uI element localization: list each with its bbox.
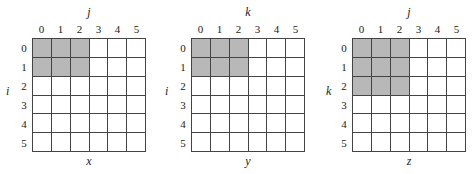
grid-cell bbox=[267, 96, 286, 115]
col-tick: 0 bbox=[32, 23, 51, 35]
grid-cell bbox=[447, 96, 466, 115]
col-tick-labels: 0 1 2 3 4 5 bbox=[352, 23, 466, 35]
grid-cell bbox=[230, 58, 249, 77]
grid-cell bbox=[71, 114, 90, 133]
row-tick-labels: 0 1 2 3 4 5 bbox=[177, 38, 189, 152]
grid-cell bbox=[33, 77, 52, 96]
grid-cell bbox=[286, 133, 305, 152]
grid-cell bbox=[211, 39, 230, 58]
grid-cell bbox=[447, 58, 466, 77]
grid-cell bbox=[428, 114, 447, 133]
grid-cell bbox=[90, 114, 109, 133]
col-tick: 1 bbox=[51, 23, 70, 35]
grid-cell bbox=[71, 58, 90, 77]
grid-cell bbox=[372, 96, 391, 115]
grid-cell bbox=[447, 114, 466, 133]
grid-cell bbox=[428, 39, 447, 58]
grid-cell bbox=[372, 39, 391, 58]
grid-cell bbox=[410, 96, 429, 115]
col-tick: 0 bbox=[191, 23, 210, 35]
grid-cell bbox=[428, 58, 447, 77]
grid-cell bbox=[90, 58, 109, 77]
grid-cell bbox=[353, 114, 372, 133]
col-tick-labels: 0 1 2 3 4 5 bbox=[32, 23, 146, 35]
col-tick: 5 bbox=[127, 23, 146, 35]
grid-cell bbox=[267, 114, 286, 133]
grid-cell bbox=[353, 39, 372, 58]
grid-cell bbox=[372, 114, 391, 133]
grid-cell bbox=[353, 96, 372, 115]
grid-cell bbox=[353, 58, 372, 77]
col-tick: 4 bbox=[108, 23, 127, 35]
grid-cell bbox=[286, 39, 305, 58]
grid-cell bbox=[90, 96, 109, 115]
grid-cell bbox=[391, 77, 410, 96]
row-axis-label: k bbox=[326, 84, 331, 99]
grid-cell bbox=[192, 114, 211, 133]
col-tick: 4 bbox=[267, 23, 286, 35]
grid-cell bbox=[372, 77, 391, 96]
row-tick: 0 bbox=[177, 38, 189, 57]
grid-cell bbox=[447, 133, 466, 152]
grid-cell bbox=[90, 77, 109, 96]
row-tick: 5 bbox=[18, 133, 30, 152]
row-tick: 5 bbox=[338, 133, 350, 152]
col-tick: 0 bbox=[352, 23, 371, 35]
grid-cell bbox=[249, 58, 268, 77]
grid-cell bbox=[410, 133, 429, 152]
col-tick: 5 bbox=[447, 23, 466, 35]
grid-cell bbox=[52, 58, 71, 77]
panel-z: j 0 1 2 3 4 5 k 0 1 2 3 4 5 z bbox=[332, 0, 472, 174]
grid-cell bbox=[249, 39, 268, 58]
grid-cell bbox=[428, 96, 447, 115]
grid-cell bbox=[353, 77, 372, 96]
col-tick-labels: 0 1 2 3 4 5 bbox=[191, 23, 305, 35]
grid-cell bbox=[108, 114, 127, 133]
row-axis-label: i bbox=[6, 84, 9, 99]
grid-cell bbox=[52, 133, 71, 152]
col-tick: 3 bbox=[248, 23, 267, 35]
row-tick: 3 bbox=[338, 95, 350, 114]
grid-cell bbox=[192, 39, 211, 58]
row-tick: 1 bbox=[338, 57, 350, 76]
grid-cell bbox=[108, 77, 127, 96]
row-tick: 0 bbox=[338, 38, 350, 57]
grid-cell bbox=[33, 133, 52, 152]
grid-cell bbox=[391, 133, 410, 152]
grid-cell bbox=[71, 77, 90, 96]
grid-cell bbox=[52, 77, 71, 96]
col-axis-label: j bbox=[352, 5, 466, 20]
row-tick: 0 bbox=[18, 38, 30, 57]
grid-cell bbox=[211, 133, 230, 152]
grid-cell bbox=[249, 96, 268, 115]
grid-cell bbox=[211, 58, 230, 77]
grid-cell bbox=[211, 77, 230, 96]
grid-cell bbox=[447, 39, 466, 58]
grid-cell bbox=[267, 133, 286, 152]
row-tick: 4 bbox=[338, 114, 350, 133]
grid-cell bbox=[391, 96, 410, 115]
grid-cell bbox=[33, 114, 52, 133]
grid-cell bbox=[127, 114, 146, 133]
panel-x: j 0 1 2 3 4 5 i 0 1 2 3 4 5 x bbox=[12, 0, 162, 174]
grid-cell bbox=[286, 96, 305, 115]
grid-cell bbox=[267, 39, 286, 58]
grid-cell bbox=[286, 114, 305, 133]
row-tick: 1 bbox=[18, 57, 30, 76]
grid-cell bbox=[267, 77, 286, 96]
col-tick: 2 bbox=[229, 23, 248, 35]
grid-cell bbox=[230, 39, 249, 58]
grid-cell bbox=[249, 77, 268, 96]
grid-cell bbox=[353, 133, 372, 152]
grid-cell bbox=[52, 39, 71, 58]
grid-cell bbox=[230, 114, 249, 133]
grid-cell bbox=[127, 133, 146, 152]
col-tick: 3 bbox=[89, 23, 108, 35]
col-tick: 1 bbox=[371, 23, 390, 35]
grid-cell bbox=[391, 39, 410, 58]
grid-cell bbox=[127, 96, 146, 115]
grid-cell bbox=[33, 58, 52, 77]
grid-cell bbox=[192, 96, 211, 115]
grid-cell bbox=[230, 96, 249, 115]
grid bbox=[352, 38, 466, 152]
